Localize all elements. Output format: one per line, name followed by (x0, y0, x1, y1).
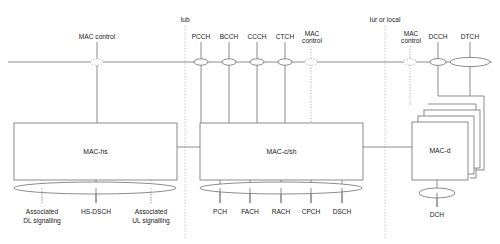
mac-control-right-stem-lower (410, 62, 412, 104)
mac-architecture-diagram: Iub Iur or local (0, 0, 500, 244)
ccch-connector (250, 59, 264, 65)
mac-c-sh-box-label: MAC-c/sh (267, 148, 297, 155)
dtch-label: DTCH (461, 33, 480, 40)
cpch-label: CPCH (302, 208, 321, 215)
mac-hs-transport-ellipse (14, 182, 176, 194)
pcch-label: PCCH (192, 33, 211, 40)
dcch-connector (430, 59, 446, 66)
pcch-connector (194, 59, 208, 65)
entity-boxes: MAC-hs MAC-c/sh MAC-d (14, 122, 468, 180)
mac-control-right-connector (404, 59, 417, 65)
mac-control-left-label: MAC control (79, 33, 116, 40)
dsch-label: DSCH (333, 208, 352, 215)
top-channel-labels: MAC control PCCH BCCH CCCH CTCH MAC cont… (79, 30, 480, 44)
mac-control-mid-label: MAC (305, 30, 320, 37)
diagram-canvas: Iub Iur or local (0, 0, 500, 244)
assoc-ul-signalling-label-line2: UL signalling (132, 217, 170, 225)
mac-control-right-label: MAC (404, 30, 419, 37)
top-channel-stems-lower (97, 62, 470, 123)
fach-label: FACH (241, 208, 259, 215)
assoc-ul-signalling-label: Associated (135, 208, 168, 215)
mac-hs-box-label: MAC-hs (83, 148, 108, 155)
ctch-label: CTCH (276, 33, 295, 40)
dtch-connector (450, 57, 490, 66)
mac-d-transport-group: DCH (419, 180, 455, 218)
iur-label: Iur or local (370, 16, 401, 23)
dcch-label: DCCH (428, 33, 447, 40)
pch-label: PCH (213, 208, 227, 215)
dch-label: DCH (430, 211, 445, 218)
mac-control-left-connector (91, 59, 104, 65)
mac-hs-transport-group: Associated DL signalling HS-DSCH Associa… (14, 180, 176, 225)
bcch-label: BCCH (220, 33, 239, 40)
mac-d-box-label: MAC-d (429, 147, 450, 154)
hs-dsch-label: HS-DSCH (81, 208, 111, 215)
bcch-connector (222, 59, 236, 65)
assoc-dl-signalling-label: Associated (26, 208, 59, 215)
ccch-label: CCCH (247, 33, 266, 40)
iub-label: Iub (180, 16, 189, 23)
mac-c-sh-transport-group: PCH FACH RACH CPCH DSCH (200, 180, 362, 215)
mac-control-mid-label-line2: control (302, 37, 322, 44)
rach-label: RACH (272, 208, 291, 215)
assoc-dl-signalling-label-line2: DL signalling (23, 217, 61, 225)
mac-control-right-label-line2: control (401, 37, 421, 44)
mac-control-mid-connector (305, 59, 318, 65)
ctch-connector (278, 59, 292, 65)
